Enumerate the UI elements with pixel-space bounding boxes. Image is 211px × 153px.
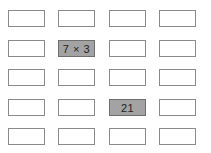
highlighted-cell-result: 21: [109, 99, 146, 116]
grid-cell: [109, 40, 146, 57]
highlighted-cell-expression: 7 × 3: [58, 40, 95, 57]
grid-cell: [159, 69, 196, 86]
grid-cell: [159, 128, 196, 145]
grid-cell: [8, 128, 45, 145]
box-grid: 7 × 3 21: [0, 0, 211, 153]
grid-cell: [159, 99, 196, 116]
grid-cell: [8, 99, 45, 116]
grid-cell: [159, 40, 196, 57]
grid-cell: [8, 40, 45, 57]
grid-cell: [8, 10, 45, 27]
grid-cell: [159, 10, 196, 27]
grid-cell: [58, 128, 95, 145]
grid-cell: [58, 69, 95, 86]
grid-cell: [58, 10, 95, 27]
grid-cell: [109, 69, 146, 86]
grid-cell: [8, 69, 45, 86]
grid-cell: [109, 10, 146, 27]
grid-cell: [109, 128, 146, 145]
grid-cell: [58, 99, 95, 116]
